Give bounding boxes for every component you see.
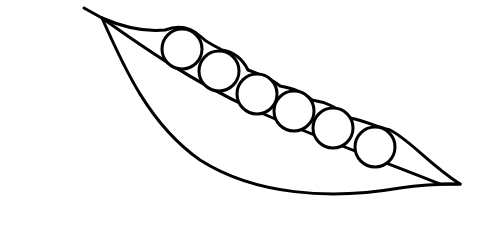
pea-4 — [274, 91, 314, 131]
pea-2 — [199, 51, 239, 91]
pea-3 — [237, 74, 277, 114]
pea-5 — [313, 108, 353, 148]
peas-group — [162, 29, 395, 167]
pea-pod-illustration — [0, 0, 492, 248]
pod-stem — [84, 8, 102, 18]
pea-1 — [162, 29, 202, 69]
pea-6 — [355, 127, 395, 167]
